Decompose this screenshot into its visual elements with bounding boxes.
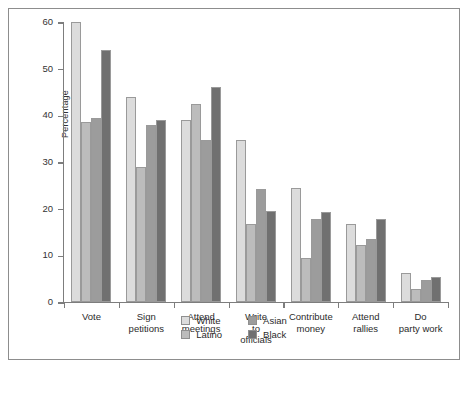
legend-item-asian[interactable]: Asian bbox=[248, 315, 287, 326]
legend-swatch-icon bbox=[181, 330, 190, 339]
y-axis-tick-label: 50 bbox=[42, 63, 53, 74]
bar[interactable] bbox=[291, 188, 301, 302]
bar[interactable] bbox=[376, 219, 386, 302]
legend-swatch-icon bbox=[181, 316, 190, 325]
bar-group-bars bbox=[64, 23, 119, 302]
bar-group: Contributemoney bbox=[283, 23, 338, 302]
bar-group: Attendmeetings bbox=[174, 23, 229, 302]
bar[interactable] bbox=[311, 219, 321, 302]
x-axis-tick-mark bbox=[393, 302, 394, 308]
bar[interactable] bbox=[191, 104, 201, 302]
y-axis-tick-label: 10 bbox=[42, 249, 53, 260]
bar-group-bars bbox=[229, 23, 284, 302]
bar[interactable] bbox=[136, 167, 146, 302]
bar-group-bars bbox=[174, 23, 229, 302]
bar[interactable] bbox=[101, 50, 111, 302]
bar[interactable] bbox=[366, 239, 376, 302]
x-axis-tick-mark bbox=[64, 302, 65, 308]
bar[interactable] bbox=[401, 273, 411, 302]
y-axis-tick-label: 40 bbox=[42, 109, 53, 120]
plot-area: 0102030405060 VoteSignpetitionsAttendmee… bbox=[63, 23, 448, 303]
legend-item-latino[interactable]: Latino bbox=[181, 329, 222, 340]
bar[interactable] bbox=[236, 140, 246, 302]
x-axis-tick-mark bbox=[283, 302, 284, 308]
bar[interactable] bbox=[126, 97, 136, 302]
bar[interactable] bbox=[301, 258, 311, 302]
legend-swatch-icon bbox=[248, 316, 257, 325]
bar[interactable] bbox=[156, 120, 166, 302]
bar-group-bars bbox=[338, 23, 393, 302]
x-axis-tick-mark bbox=[448, 302, 449, 308]
y-axis-tick-label: 20 bbox=[42, 203, 53, 214]
x-axis-tick-mark bbox=[229, 302, 230, 308]
bar-groups: VoteSignpetitionsAttendmeetingsWritetoof… bbox=[64, 23, 448, 302]
legend-label: Latino bbox=[196, 329, 222, 340]
bar[interactable] bbox=[181, 120, 191, 302]
bar-group: Doparty work bbox=[393, 23, 448, 302]
x-axis-tick-mark bbox=[338, 302, 339, 308]
bar[interactable] bbox=[256, 189, 266, 302]
y-axis-tick-label: 0 bbox=[48, 296, 53, 307]
legend-label: White bbox=[196, 315, 220, 326]
bar[interactable] bbox=[266, 211, 276, 302]
legend-column: WhiteLatino bbox=[181, 315, 222, 340]
bar[interactable] bbox=[421, 280, 431, 302]
bar-group: Attendrallies bbox=[338, 23, 393, 302]
bar[interactable] bbox=[431, 277, 441, 302]
bar[interactable] bbox=[356, 245, 366, 302]
bar-group: Signpetitions bbox=[119, 23, 174, 302]
legend-item-black[interactable]: Black bbox=[248, 329, 287, 340]
bar[interactable] bbox=[71, 22, 81, 302]
legend-swatch-icon bbox=[248, 330, 257, 339]
x-axis-tick-mark bbox=[174, 302, 175, 308]
y-axis-tick-label: 60 bbox=[42, 16, 53, 27]
bar[interactable] bbox=[246, 224, 256, 302]
bar-group: Vote bbox=[64, 23, 119, 302]
bar-group-bars bbox=[393, 23, 448, 302]
bar[interactable] bbox=[411, 289, 421, 302]
bar-group-bars bbox=[119, 23, 174, 302]
bar-group-bars bbox=[283, 23, 338, 302]
bar[interactable] bbox=[81, 122, 91, 302]
bar[interactable] bbox=[91, 118, 101, 302]
bar[interactable] bbox=[146, 125, 156, 302]
y-axis-tick-label: 30 bbox=[42, 156, 53, 167]
legend-column: AsianBlack bbox=[248, 315, 287, 340]
bar[interactable] bbox=[211, 87, 221, 302]
bar[interactable] bbox=[201, 140, 211, 302]
legend-item-white[interactable]: White bbox=[181, 315, 222, 326]
figure-frame: Percentage 0102030405060 VoteSignpetitio… bbox=[8, 8, 460, 360]
legend-label: Asian bbox=[263, 315, 287, 326]
legend-label: Black bbox=[263, 329, 286, 340]
bar-group: Writetoofficials bbox=[229, 23, 284, 302]
chart-legend: WhiteLatinoAsianBlack bbox=[9, 315, 459, 340]
bar[interactable] bbox=[346, 224, 356, 302]
x-axis-tick-mark bbox=[119, 302, 120, 308]
bar[interactable] bbox=[321, 212, 331, 302]
